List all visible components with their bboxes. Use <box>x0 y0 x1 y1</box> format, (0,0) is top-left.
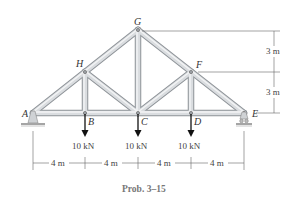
pin-G <box>136 28 139 31</box>
joint-label-E: E <box>251 108 258 119</box>
dim-label-lower-height: 3 m <box>266 87 280 97</box>
load-label-D: 10 kN <box>178 141 201 151</box>
dim-label-AB: 4 m <box>51 158 65 168</box>
load-arrows <box>82 114 195 137</box>
joint-label-D: D <box>193 116 202 127</box>
vertical-dimension-lines <box>142 31 280 113</box>
dim-label-DE: 4 m <box>210 158 224 168</box>
joint-label-G: G <box>134 16 141 27</box>
truss-members <box>33 29 244 113</box>
dim-label-BC: 4 m <box>104 158 118 168</box>
pin-F <box>189 70 192 73</box>
load-label-C: 10 kN <box>125 141 148 151</box>
load-label-B: 10 kN <box>72 141 95 151</box>
pin-H <box>83 70 86 73</box>
dim-label-CD: 4 m <box>157 158 171 168</box>
joint-label-H: H <box>75 58 84 69</box>
truss-diagram: A B C D E F G H 10 kN 10 kN 10 kN 4 <box>0 0 300 203</box>
joint-label-A: A <box>21 108 29 119</box>
joint-label-B: B <box>88 116 94 127</box>
dim-label-upper-height: 3 m <box>266 46 280 56</box>
joint-label-C: C <box>141 116 148 127</box>
figure-caption: Prob. 3–15 <box>122 184 166 194</box>
joint-label-F: F <box>195 59 203 70</box>
